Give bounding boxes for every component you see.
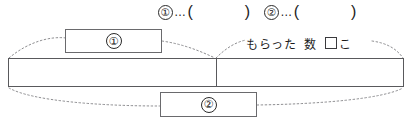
answer-square-box[interactable] [325,37,337,49]
callout-2-marker-icon: ② [201,97,217,113]
tape-segment-right[interactable] [217,59,403,86]
connector-arc-bottom-left [9,88,160,106]
answer-slot-2: ② … ( ) [264,3,356,21]
annotation-received-count: もらった 数 こ [246,33,352,53]
worksheet-canvas: ① … ( ) ② … ( ) ① もらった 数 こ ② [0,0,418,125]
tape-segment-left[interactable] [9,59,216,86]
answer-slot-1: ① … ( ) [158,3,250,21]
callout-1-marker-icon: ① [106,33,122,49]
paren-close-1: ) [245,3,250,21]
connector-arc-left-top [9,38,66,58]
circled-number-1-icon: ① [158,5,173,20]
callout-box-2[interactable]: ② [160,92,257,117]
annotation-text-moratta: もらった [246,35,296,52]
tape-diagram-bar [8,58,404,87]
connector-arc-left-top-2 [162,41,215,58]
annotation-counter-ko: こ [339,35,352,52]
connector-arc-right-top [216,40,246,58]
circled-number-2-icon: ② [264,5,279,20]
paren-close-2: ) [351,3,356,21]
answer-line: ① … ( ) ② … ( ) [158,1,414,23]
callout-box-1[interactable]: ① [65,29,162,53]
ellipsis-2: … [280,5,293,19]
connector-arc-bottom-right [257,88,403,105]
paren-open-1: ( [188,3,193,21]
connector-arc-right-top-2 [372,41,403,58]
paren-open-2: ( [294,3,299,21]
ellipsis-1: … [174,5,187,19]
annotation-text-kazu: 数 [304,35,317,52]
